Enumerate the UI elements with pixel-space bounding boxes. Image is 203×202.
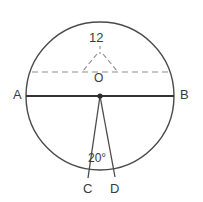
label-radius-measure: 12 [89,31,103,44]
geometry-figure: A B O 12 C D 20° [0,0,203,202]
label-point-d: D [110,182,119,195]
label-point-c: C [83,182,92,195]
radius-line-oc [88,96,100,178]
measure-pointer-left-icon [82,54,97,72]
label-point-a: A [13,88,22,101]
measure-pointer-right-icon [103,54,118,72]
label-angle-measure: 20° [88,152,106,164]
label-point-o: O [94,72,103,84]
label-point-b: B [180,88,189,101]
center-point-o [97,93,102,98]
